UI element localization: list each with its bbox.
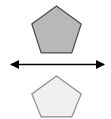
- figure-root: [0, 0, 111, 119]
- pentagon-diagram-svg: [0, 0, 111, 119]
